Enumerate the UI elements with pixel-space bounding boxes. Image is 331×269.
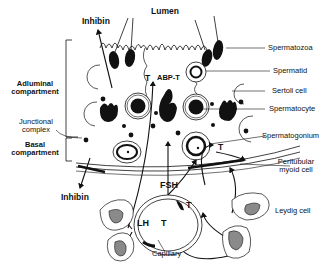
spermatozoa-left — [108, 18, 137, 70]
inhibin-bottom-arrow — [80, 158, 90, 188]
spermatogonium-label: Spermatogonium — [262, 132, 319, 140]
fsh-label: FSH — [160, 181, 178, 189]
residual-bodies — [84, 89, 249, 142]
testosterone-label: T — [145, 74, 150, 82]
inhibin-bottom-label: Inhibin — [61, 193, 89, 201]
basal-compartment-label: Basal compartment — [6, 141, 64, 157]
spermatozoa-right — [195, 16, 225, 68]
spermatocyte-right — [183, 94, 209, 120]
sertoli-cell-label: Sertoli cell — [272, 87, 307, 95]
leydig-cell-label: Leydig cell — [275, 207, 310, 215]
spermatocyte-label: Spermatocyte — [269, 105, 315, 113]
spermatogonium-right — [182, 132, 210, 160]
testosterone-right-label: T — [218, 143, 223, 151]
lumen-label: Lumen — [151, 7, 179, 15]
testis-diagram: Lumen Inhibin Inhibin Adluminal compartm… — [0, 0, 331, 269]
spermatogonium-left — [113, 141, 141, 163]
spermatocyte-left — [125, 93, 151, 119]
inhibin-top-label: Inhibin — [82, 17, 110, 25]
testosterone-capillary-label: T — [161, 219, 167, 227]
adluminal-compartment-label: Adluminal compartment — [6, 80, 64, 96]
spermatozoa-label: Spermatozoa — [268, 44, 313, 52]
spermatid-label: Spermatid — [273, 67, 307, 75]
peritubular-myoid-cell-label: Peritubular myoid cell — [268, 158, 324, 174]
capillary-label: Capillary — [152, 250, 181, 258]
junctional-complex-label: Junctional complex — [12, 118, 60, 134]
abp-t-label: ABP-T — [157, 74, 180, 82]
lh-label: LH — [137, 219, 149, 227]
testosterone-leydig-label: T — [186, 201, 192, 209]
spermatid — [186, 62, 206, 82]
